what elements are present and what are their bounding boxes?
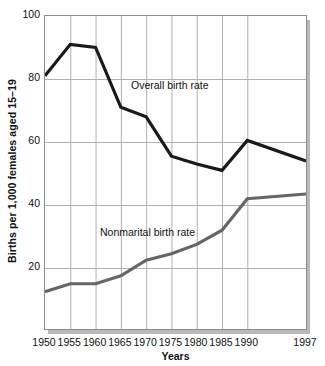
series-label-overall-birth-rate: Overall birth rate bbox=[131, 79, 209, 91]
x-axis-title: Years bbox=[44, 350, 307, 362]
x-tick-label: 1997 bbox=[288, 336, 322, 348]
birth-rate-line-chart: Births per 1,000 females aged 15–19 1008… bbox=[0, 0, 325, 366]
x-tick-labels: 1950195519601965197019751980198519901997 bbox=[0, 0, 325, 366]
series-label-nonmarital-birth-rate: Nonmarital birth rate bbox=[100, 226, 195, 238]
x-tick-label: 1990 bbox=[229, 336, 263, 348]
